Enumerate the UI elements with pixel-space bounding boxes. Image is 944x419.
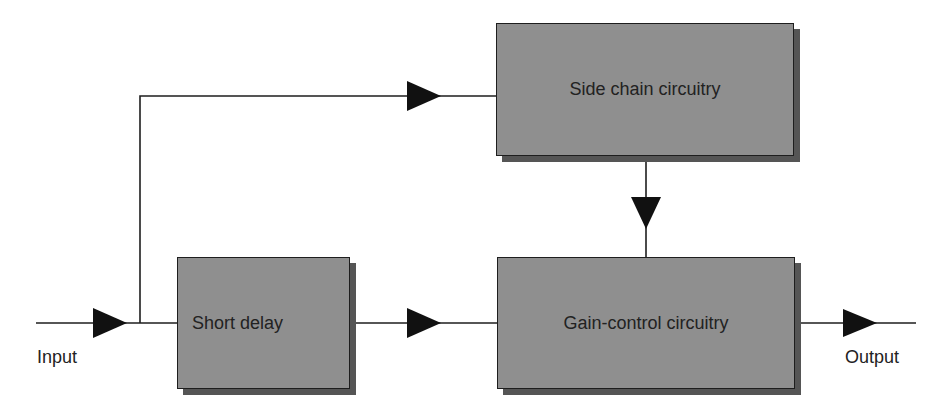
gain-control-block: Gain-control circuitry <box>497 257 795 389</box>
side-chain-arrow-icon <box>407 81 441 111</box>
output-label: Output <box>845 347 899 368</box>
short-delay-label: Short delay <box>192 313 283 334</box>
input-arrow-icon <box>93 308 127 338</box>
side-chain-label: Side chain circuitry <box>569 79 720 100</box>
delay-out-arrow-icon <box>407 308 441 338</box>
input-label: Input <box>37 347 77 368</box>
output-arrow-icon <box>843 309 877 337</box>
gain-control-label: Gain-control circuitry <box>563 313 728 334</box>
connector-lines <box>0 0 944 419</box>
control-arrow-icon <box>631 197 661 229</box>
side-chain-block: Side chain circuitry <box>496 23 794 156</box>
short-delay-block: Short delay <box>177 257 350 389</box>
